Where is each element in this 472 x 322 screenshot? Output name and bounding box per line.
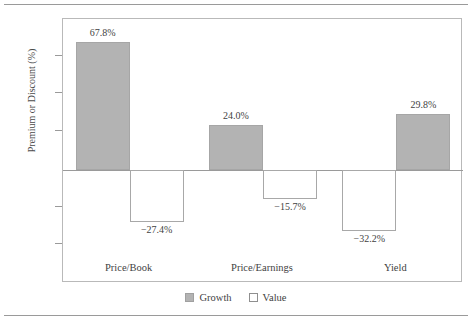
chart-legend: GrowthValue bbox=[0, 292, 472, 303]
bar-yield-growth bbox=[396, 114, 450, 170]
legend-swatch-value-icon bbox=[249, 293, 258, 302]
bar-value-label: 29.8% bbox=[378, 99, 468, 110]
bar-value-label: −15.7% bbox=[245, 201, 335, 212]
bar-price-book-value bbox=[130, 170, 184, 222]
top-rule bbox=[4, 4, 468, 5]
y-axis-title: Premium or Discount (%) bbox=[26, 16, 37, 186]
bar-price-earnings-value bbox=[263, 170, 317, 200]
legend-item-value: Value bbox=[249, 292, 287, 303]
x-category-label: Price/Book bbox=[59, 262, 199, 273]
legend-label: Value bbox=[263, 292, 287, 303]
y-tick-mark bbox=[55, 92, 62, 93]
x-category-label: Price/Earnings bbox=[192, 262, 332, 273]
plot-area: 67.8%−27.4%24.0%−15.7%−32.2%29.8% bbox=[62, 18, 462, 282]
bar-value-label: −27.4% bbox=[112, 224, 202, 235]
bottom-rule bbox=[4, 315, 468, 316]
bar-yield-value bbox=[342, 170, 396, 231]
figure: Premium or Discount (%) 80604020S&P 500−… bbox=[0, 0, 472, 322]
bar-value-label: 24.0% bbox=[191, 110, 281, 121]
bar-value-label: 67.8% bbox=[58, 27, 148, 38]
x-category-label: Yield bbox=[325, 262, 465, 273]
legend-item-growth: Growth bbox=[185, 292, 231, 303]
y-tick-mark bbox=[55, 130, 62, 131]
y-tick-mark bbox=[55, 243, 62, 244]
y-tick-mark bbox=[55, 55, 62, 56]
bar-price-book-growth bbox=[76, 42, 130, 170]
y-tick-mark bbox=[55, 206, 62, 207]
legend-swatch-growth-icon bbox=[185, 293, 194, 302]
legend-label: Growth bbox=[199, 292, 231, 303]
bar-value-label: −32.2% bbox=[324, 233, 414, 244]
bar-price-earnings-growth bbox=[209, 125, 263, 170]
